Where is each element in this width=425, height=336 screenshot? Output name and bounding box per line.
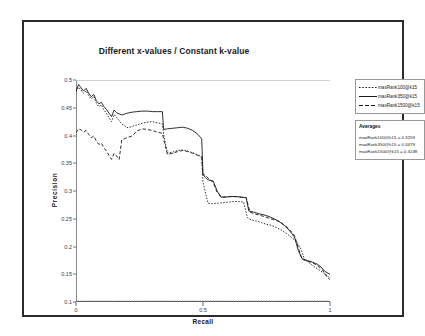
plot-area: 0.50.450.40.350.30.250.20.150.1 00.51 [76,80,330,302]
x-tick-label: 0.5 [199,307,207,313]
y-tick-mark [73,107,76,108]
y-tick-mark [73,218,76,219]
x-tick-label: 0 [74,307,77,313]
y-tick-mark [73,135,76,136]
x-tick-mark [330,302,331,306]
y-tick-label: 0.25 [61,216,72,222]
y-tick-label: 0.3 [64,188,72,194]
y-tick-mark [73,80,76,81]
y-tick-label: 0.35 [61,160,72,166]
legend-item-label: maxRank100@k15 [378,83,417,92]
y-tick-mark [73,274,76,275]
y-tick-mark [73,191,76,192]
legend-item-label: maxRank1500@k15 [378,101,420,110]
x-tick-mark [76,302,77,306]
y-tick-label: 0.4 [64,133,72,139]
y-tick-label: 0.45 [61,105,72,111]
legend-item-label: maxRank350@k15 [378,92,417,101]
averages-title: Averages [359,124,421,129]
legend-line-solid-icon [358,93,378,100]
figure-frame: Different x-values / Constant k-value Pr… [22,20,404,317]
y-tick-label: 0.5 [64,77,72,83]
screenshot-root: Different x-values / Constant k-value Pr… [0,0,425,336]
chart-title: Different x-values / Constant k-value [24,46,324,56]
plot-curves [76,80,330,302]
y-tick-mark [73,163,76,164]
averages-panel: Averages maxRank100@k15 = 0.3259 maxRank… [355,120,425,160]
y-axis-label: Precision [51,173,58,208]
series-line [76,84,330,274]
series-line [76,87,330,278]
legend-item: maxRank100@k15 [358,83,422,92]
average-row: maxRank1500@k15 = 0.3248 [359,148,421,155]
legend: maxRank100@k15 maxRank350@k15 maxRank150… [355,79,425,114]
series-line [76,129,330,280]
legend-item: maxRank350@k15 [358,92,422,101]
y-tick-label: 0.2 [64,244,72,250]
average-row: maxRank350@k15 = 0.3479 [359,141,421,148]
average-row: maxRank100@k15 = 0.3259 [359,134,421,141]
y-tick-label: 0.1 [64,299,72,305]
x-tick-label: 1 [328,307,331,313]
x-tick-mark [203,302,204,306]
legend-item: maxRank1500@k15 [358,101,422,110]
legend-line-dotted-icon [358,84,378,91]
x-axis-label: Recall [76,318,330,325]
y-tick-mark [73,246,76,247]
legend-line-dashed-icon [358,102,378,109]
y-tick-label: 0.15 [61,271,72,277]
